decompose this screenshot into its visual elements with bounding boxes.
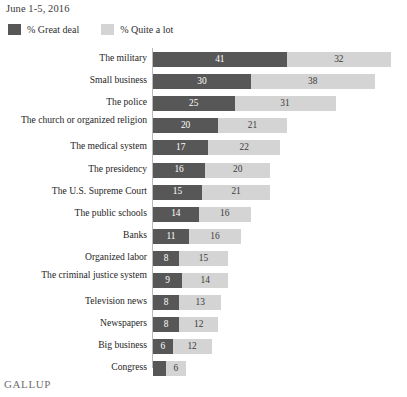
bar-segment-quite-a-lot: 20 [205,163,270,178]
chart-row: Newspapers812 [0,314,407,336]
bar-segment-great-deal: 25 [153,96,235,111]
bar-value-great-deal: 16 [174,165,183,174]
bar-segment-great-deal: 15 [153,185,202,200]
bar-segment-great-deal: 16 [153,163,205,178]
row-category-label: Small business [5,75,147,86]
bar-value-quite-a-lot: 15 [199,254,208,263]
row-bars: 1416 [153,207,251,222]
row-category-label: Newspapers [5,318,147,329]
row-category-label: Congress [5,362,147,373]
row-category-label: The medical system [5,141,147,152]
bar-segment-great-deal: 41 [153,52,287,67]
bar-segment-quite-a-lot: 13 [179,295,221,310]
row-bars: 4132 [153,52,391,67]
row-category-label: The U.S. Supreme Court [5,186,147,197]
chart-row: Big business612 [0,336,407,358]
row-bars: 1620 [153,163,270,178]
chart-row: The military4132 [0,49,407,71]
bar-segment-quite-a-lot: 14 [182,273,228,288]
bar-value-great-deal: 41 [215,55,224,64]
plot-area: The military4132Small business3038The po… [0,48,407,370]
row-category-label: Banks [5,230,147,241]
bar-segment-quite-a-lot: 38 [251,74,375,89]
chart-row: Congress6 [0,358,407,380]
row-category-label: The church or organized religion [5,115,147,125]
bar-segment-quite-a-lot: 6 [166,361,186,376]
legend-item-great-deal: % Great deal [8,24,79,35]
chart-row: Small business3038 [0,71,407,93]
bar-value-great-deal: 15 [173,187,182,196]
bar-value-quite-a-lot: 20 [233,165,242,174]
bar-segment-quite-a-lot: 21 [202,185,270,200]
bar-segment-great-deal: 8 [153,295,179,310]
bar-segment-great-deal: 8 [153,317,179,332]
row-bars: 3038 [153,74,375,89]
bar-value-quite-a-lot: 38 [308,77,317,86]
chart-legend: % Great deal % Quite a lot [8,24,173,35]
bar-segment-great-deal: 6 [153,339,173,354]
row-category-label: The police [5,97,147,108]
bar-value-great-deal: 8 [164,254,169,263]
bar-value-quite-a-lot: 21 [248,121,257,130]
bar-value-quite-a-lot: 32 [334,55,343,64]
bar-segment-quite-a-lot: 22 [208,140,280,155]
bar-segment-quite-a-lot: 16 [189,229,241,244]
bar-value-great-deal: 20 [181,121,190,130]
bar-segment-quite-a-lot: 12 [173,339,212,354]
gallup-confidence-chart: June 1-5, 2016 % Great deal % Quite a lo… [0,0,407,397]
bar-value-great-deal: 8 [164,320,169,329]
bar-segment-quite-a-lot: 15 [179,251,228,266]
bar-value-quite-a-lot: 31 [280,99,289,108]
chart-row: The church or organized religion2021 [0,115,407,137]
date-range-label: June 1-5, 2016 [6,3,70,14]
bar-segment-quite-a-lot: 12 [179,317,218,332]
bar-value-quite-a-lot: 14 [200,276,209,285]
row-bars: 1116 [153,229,241,244]
bar-segment-great-deal: 14 [153,207,199,222]
bar-value-quite-a-lot: 12 [187,342,196,351]
chart-row: The presidency1620 [0,160,407,182]
row-category-label: The criminal justice system [5,270,147,280]
bar-value-great-deal: 11 [166,232,175,241]
chart-row: Organized labor815 [0,248,407,270]
row-bars: 1722 [153,140,280,155]
bar-segment-quite-a-lot: 21 [218,118,286,133]
chart-row: The public schools1416 [0,204,407,226]
bar-value-quite-a-lot: 6 [173,364,178,373]
row-bars: 812 [153,317,218,332]
row-bars: 914 [153,273,228,288]
chart-row: The police2531 [0,93,407,115]
bar-value-great-deal: 30 [197,77,206,86]
chart-row: Banks1116 [0,226,407,248]
legend-swatch-great-deal [8,24,21,35]
row-bars: 815 [153,251,228,266]
bar-segment-great-deal: 9 [153,273,182,288]
row-category-label: The public schools [5,208,147,219]
bar-segment-quite-a-lot: 31 [235,96,336,111]
row-bars: 612 [153,339,212,354]
row-category-label: Organized labor [5,252,147,263]
bar-value-great-deal: 17 [176,143,185,152]
bar-segment-great-deal: 17 [153,140,208,155]
row-category-label: The presidency [5,164,147,175]
bar-segment-great-deal: 20 [153,118,218,133]
legend-item-quite-a-lot: % Quite a lot [101,24,173,35]
row-bars: 2021 [153,118,287,133]
bar-segment-quite-a-lot: 32 [287,52,391,67]
chart-row: The medical system1722 [0,137,407,159]
chart-row: The U.S. Supreme Court1521 [0,182,407,204]
row-category-label: The military [5,53,147,64]
row-bars: 6 [153,361,186,376]
bar-segment-quite-a-lot: 16 [199,207,251,222]
row-bars: 1521 [153,185,270,200]
bar-value-quite-a-lot: 13 [196,298,205,307]
bar-segment-great-deal: 11 [153,229,189,244]
bar-segment-great-deal: 30 [153,74,251,89]
bar-value-quite-a-lot: 16 [220,209,229,218]
bar-value-great-deal: 25 [189,99,198,108]
bar-value-quite-a-lot: 12 [194,320,203,329]
legend-label-quite-a-lot: % Quite a lot [120,24,173,35]
bar-value-great-deal: 8 [164,298,169,307]
bar-value-quite-a-lot: 16 [210,232,219,241]
row-bars: 2531 [153,96,336,111]
